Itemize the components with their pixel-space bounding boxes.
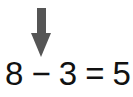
subtraction-equation: 8 − 3 = 5 [5,56,131,92]
down-arrow-icon [30,8,52,58]
operand-2: 3 [59,56,77,92]
operand-1: 8 [5,56,23,92]
equals-sign: = [85,56,104,92]
result: 5 [113,56,131,92]
minus-sign: − [31,56,50,92]
